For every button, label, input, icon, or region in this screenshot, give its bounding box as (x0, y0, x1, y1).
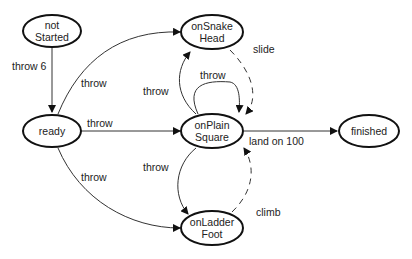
edge-snake-plain (230, 50, 253, 114)
node-on-plain-square-label: onPlain Square (194, 119, 229, 143)
edge-plain-snake (179, 52, 196, 114)
edge-label-land-on-100: land on 100 (249, 135, 304, 147)
edge-label-plain-ladder: throw (143, 161, 169, 173)
node-finished-label: finished (351, 125, 387, 137)
label-line: finished (351, 125, 387, 137)
edge-ready-snakehead (58, 32, 180, 114)
edge-label-ready-plain: throw (87, 117, 113, 129)
node-on-snake-head-label: onSnake Head (191, 20, 232, 44)
label-line: Foot (190, 228, 234, 240)
edge-plain-self (194, 82, 240, 114)
edge-label-plain-self: throw (200, 69, 226, 81)
edge-ready-ladderfoot (58, 148, 180, 228)
edge-plain-ladder (178, 148, 196, 214)
edge-label-climb: climb (256, 206, 281, 218)
node-on-ladder-foot-label: onLadder Foot (190, 216, 234, 240)
label-line: Started (35, 31, 69, 43)
node-ready-label: ready (39, 125, 65, 137)
edge-ladder-plain (232, 148, 251, 212)
label-line: Head (191, 32, 232, 44)
node-not-started-label: not Started (35, 19, 69, 43)
edge-label-ready-ladder: throw (81, 171, 107, 183)
label-line: not (35, 19, 69, 31)
label-line: onSnake (191, 20, 232, 32)
label-line: Square (194, 131, 229, 143)
edge-label-throw6: throw 6 (12, 60, 46, 72)
edge-label-slide: slide (253, 43, 275, 55)
label-line: onLadder (190, 216, 234, 228)
edge-label-ready-snake: throw (81, 77, 107, 89)
label-line: onPlain (194, 119, 229, 131)
edge-label-plain-snake: throw (143, 85, 169, 97)
label-line: ready (39, 125, 65, 137)
